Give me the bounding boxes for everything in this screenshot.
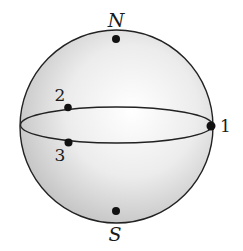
point-1	[207, 122, 216, 131]
south-pole-point	[112, 207, 120, 215]
sphere	[20, 30, 213, 223]
sphere-diagram-canvas: N S 1 2 3	[0, 0, 243, 251]
south-pole-label: S	[108, 223, 121, 245]
point-1-label: 1	[220, 116, 231, 136]
north-pole-label: N	[107, 9, 126, 31]
north-pole-point	[112, 35, 120, 43]
sphere-diagram: N S 1 2 3	[0, 0, 243, 251]
point-3-label: 3	[55, 145, 66, 165]
point-3	[65, 139, 73, 147]
point-2-label: 2	[55, 85, 66, 105]
